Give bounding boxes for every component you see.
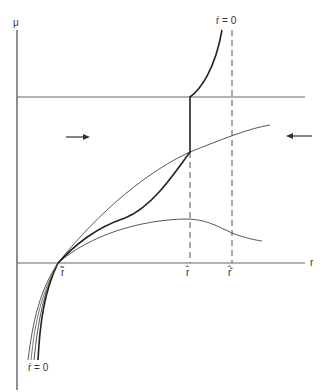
- lower-thin-curve: [34, 219, 262, 360]
- lower-r-dot-zero-label: ṙ = 0: [28, 362, 49, 373]
- upper-r-dot-zero-label: ṙ = 0: [216, 15, 237, 26]
- mu-axis-label: μ: [13, 17, 19, 28]
- r-dot-zero-curve: [38, 30, 222, 360]
- r-tilde-label: r̃: [60, 266, 65, 278]
- r-hat-hat-label: r̂̂: [227, 265, 233, 278]
- phase-diagram: μ r r̃ r̂ r̂̂ ṙ = 0 ṙ = 0: [0, 0, 325, 392]
- lower-tail-curve: [31, 263, 58, 360]
- right-pointing-arrow: [66, 134, 90, 140]
- upper-thin-curve: [28, 125, 270, 360]
- left-pointing-arrow: [286, 133, 312, 139]
- r-axis-label: r: [310, 257, 314, 268]
- r-hat-label: r̂: [185, 265, 190, 278]
